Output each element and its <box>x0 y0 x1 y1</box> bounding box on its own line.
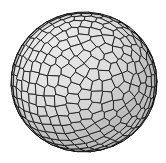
tessellated-sphere-graphic: Tessellated sphere <box>0 0 166 163</box>
sphere-cell <box>90 91 102 103</box>
sphere-cell <box>27 83 35 95</box>
sphere-figure: Tessellated sphere <box>0 0 166 163</box>
cell-mesh-group <box>11 12 157 152</box>
